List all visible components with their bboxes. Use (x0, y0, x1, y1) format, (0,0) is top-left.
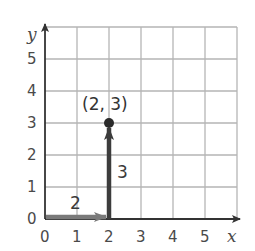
grid-lines (45, 27, 237, 219)
vertical-move-label: 3 (117, 162, 128, 182)
svg-text:4: 4 (27, 82, 37, 100)
svg-text:1: 1 (27, 178, 37, 196)
horizontal-move-label: 2 (70, 193, 81, 213)
x-tick-labels: 0 1 2 3 4 5 (40, 228, 210, 246)
svg-text:5: 5 (200, 228, 210, 246)
y-axis-label: y (26, 24, 37, 44)
svg-text:3: 3 (136, 228, 146, 246)
point-label: (2, 3) (82, 94, 128, 114)
svg-text:1: 1 (72, 228, 82, 246)
svg-text:3: 3 (27, 114, 37, 132)
coordinate-plane: y x 0 1 2 3 4 5 0 1 2 3 4 5 2 3 (2, 3) (0, 0, 255, 251)
point-marker (104, 118, 114, 128)
x-axis-label: x (227, 226, 237, 246)
svg-text:2: 2 (104, 228, 114, 246)
svg-text:0: 0 (27, 210, 37, 228)
y-tick-labels: 0 1 2 3 4 5 (27, 50, 37, 228)
svg-text:0: 0 (40, 228, 50, 246)
svg-text:4: 4 (168, 228, 178, 246)
svg-text:2: 2 (27, 146, 37, 164)
svg-text:5: 5 (27, 50, 37, 68)
